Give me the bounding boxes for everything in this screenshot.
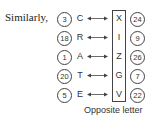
right-position-circle: 9: [130, 31, 145, 46]
right-position-circle: 26: [130, 50, 145, 65]
left-position-circle: 1: [57, 50, 72, 65]
letter: E: [75, 89, 85, 99]
letter: R: [75, 32, 85, 42]
box-caption: Opposite letter: [84, 105, 143, 115]
double-arrow-icon: [87, 33, 108, 42]
double-arrow-icon: [87, 14, 108, 23]
opposite-letter: I: [113, 32, 125, 42]
left-position-circle: 18: [57, 31, 72, 46]
double-arrow-icon: [87, 52, 108, 61]
double-arrow-icon: [87, 71, 108, 80]
letter: C: [75, 13, 85, 23]
opposite-letter: V: [113, 89, 125, 99]
left-position-circle: 20: [57, 69, 72, 84]
right-position-circle: 24: [130, 12, 145, 27]
opposite-letter: Z: [113, 51, 125, 61]
letter: T: [75, 70, 85, 80]
mapping-row: 20 T G 7: [0, 68, 152, 84]
left-position-circle: 5: [57, 88, 72, 103]
double-arrow-icon: [87, 90, 108, 99]
right-position-circle: 22: [130, 88, 145, 103]
opposite-letter: G: [113, 70, 125, 80]
letter: A: [75, 51, 85, 61]
mapping-row: 5 E V 22: [0, 87, 152, 103]
left-position-circle: 3: [57, 12, 72, 27]
mapping-row: 3 C X 24: [0, 11, 152, 27]
right-position-circle: 7: [130, 69, 145, 84]
mapping-row: 18 R I 9: [0, 30, 152, 46]
opposite-letter: X: [113, 13, 125, 23]
mapping-row: 1 A Z 26: [0, 49, 152, 65]
